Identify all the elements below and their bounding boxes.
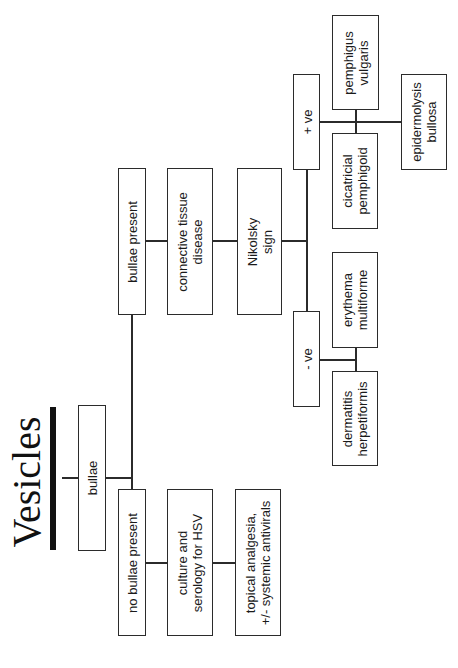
- node-cicatricial-pemphigoid-label: cicatricial pemphigoid: [340, 147, 370, 214]
- node-pemphigus-vulgaris-label: pemphigus vulgaris: [341, 31, 371, 95]
- node-nikolsky-sign: Nikolsky sign: [237, 168, 282, 315]
- node-bullae-label: bullae: [85, 461, 100, 496]
- node-negative: - ve: [293, 311, 320, 407]
- node-negative-label: - ve: [299, 348, 314, 370]
- vesicles-flowchart: Vesicles bullae bullae present no bullae…: [0, 0, 458, 668]
- node-bullae: bullae: [78, 405, 106, 551]
- node-cicatricial-pemphigoid: cicatricial pemphigoid: [332, 133, 378, 229]
- connector-bullae-trunk: [106, 477, 132, 479]
- node-topical-analgesia-label: topical analgesia, +/- systemic antivira…: [243, 500, 273, 625]
- node-bullae-present: bullae present: [118, 168, 146, 315]
- node-nikolsky-sign-label: Nikolsky sign: [245, 217, 275, 265]
- diagram-title: Vesicles: [3, 416, 50, 547]
- connector-bullae-present-ctd: [146, 240, 167, 242]
- node-no-bullae-present: no bullae present: [118, 489, 146, 636]
- node-positive-label: + ve: [299, 110, 314, 135]
- node-bullae-present-label: bullae present: [125, 201, 140, 283]
- connector-em-dh: [355, 348, 357, 371]
- title-underline: [50, 407, 56, 550]
- node-dermatitis-herpetiformis-label: dermatitis herpetiformis: [340, 381, 370, 456]
- connector-nikolsky-branch: [282, 240, 307, 242]
- node-topical-analgesia: topical analgesia, +/- systemic antivira…: [235, 489, 281, 636]
- node-erythema-multiforme-label: erythema multiforme: [340, 270, 370, 331]
- node-erythema-multiforme: erythema multiforme: [332, 252, 378, 348]
- node-no-bullae-present-label: no bullae present: [125, 513, 140, 613]
- connector-ctd-nikolsky: [213, 240, 237, 242]
- node-epidermolysis-bullosa: epidermolysis bullosa: [401, 74, 447, 170]
- connector-nobullae-culture: [146, 562, 167, 564]
- node-positive: + ve: [293, 74, 320, 170]
- node-connective-tissue-disease: connective tissue disease: [167, 168, 213, 315]
- connector-positive-outcomes: [320, 121, 401, 123]
- node-connective-tissue-disease-label: connective tissue disease: [175, 192, 205, 292]
- connector-negative-outcomes: [320, 359, 355, 361]
- node-dermatitis-herpetiformis: dermatitis herpetiformis: [332, 371, 378, 466]
- connector-trunk: [131, 315, 133, 489]
- node-culture-serology-label: culture and serology for HSV: [175, 513, 205, 611]
- connector-title-bullae: [62, 477, 78, 479]
- node-culture-serology: culture and serology for HSV: [167, 489, 213, 636]
- connector-pv-cp: [355, 110, 357, 133]
- node-pemphigus-vulgaris: pemphigus vulgaris: [332, 15, 379, 110]
- connector-culture-topical: [213, 562, 235, 564]
- node-epidermolysis-bullosa-label: epidermolysis bullosa: [409, 82, 439, 161]
